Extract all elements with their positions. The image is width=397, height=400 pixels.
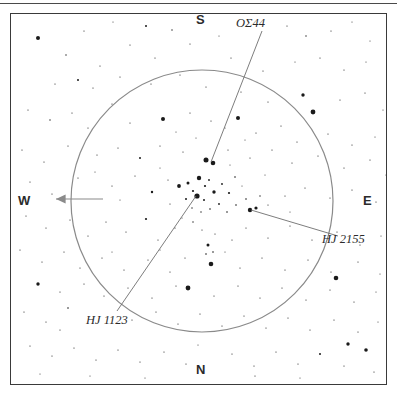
star-label-hj1123: HJ 1123 xyxy=(86,313,128,328)
star-label-os44: OΣ44 xyxy=(236,16,265,31)
cardinal-label-east: E xyxy=(363,193,372,208)
chart-frame-border xyxy=(10,13,387,385)
cardinal-label-north: N xyxy=(196,362,206,377)
star-label-hj2155: HJ 2155 xyxy=(322,232,365,247)
cardinal-label-west: W xyxy=(18,193,31,208)
star-chart-figure: S N W E OΣ44 HJ 2155 HJ 1123 xyxy=(0,0,397,400)
cardinal-label-south: S xyxy=(196,12,205,27)
top-divider-rule xyxy=(0,3,397,4)
